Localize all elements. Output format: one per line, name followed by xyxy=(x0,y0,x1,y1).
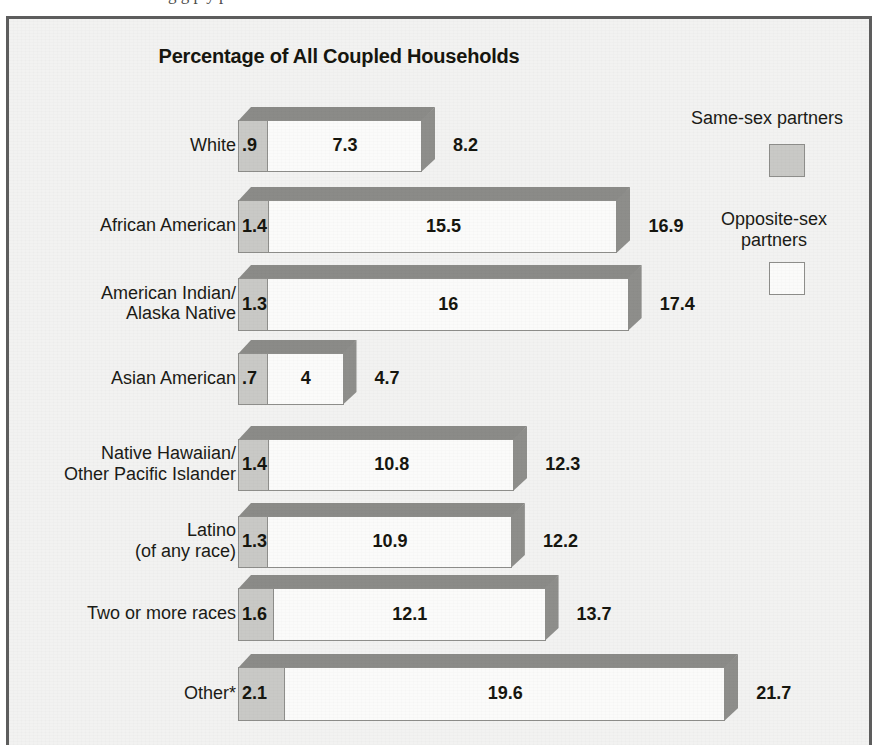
chart-frame: Percentage of All Coupled Households Whi… xyxy=(6,16,872,745)
value-label-opposite-sex: 16 xyxy=(268,294,629,315)
value-label-same-sex: .9 xyxy=(242,135,268,156)
value-label-total: 4.7 xyxy=(375,368,400,389)
value-label-total: 13.7 xyxy=(577,604,612,625)
value-label-total: 21.7 xyxy=(756,683,791,704)
legend-label: Opposite-sex partners xyxy=(699,209,849,250)
value-label-same-sex: 1.4 xyxy=(242,454,269,475)
value-label-same-sex: .7 xyxy=(242,368,268,389)
value-label-total: 12.2 xyxy=(543,531,578,552)
value-label-opposite-sex: 4 xyxy=(268,368,344,389)
value-label-opposite-sex: 7.3 xyxy=(268,135,422,156)
value-label-total: 16.9 xyxy=(648,216,683,237)
bar-top-face xyxy=(238,265,642,279)
category-label: Native Hawaiian/ Other Pacific Islander xyxy=(64,443,236,484)
value-label-same-sex: 1.6 xyxy=(242,604,274,625)
value-label-same-sex: 2.1 xyxy=(242,683,285,704)
bar-top-face xyxy=(238,575,559,589)
value-label-total: 17.4 xyxy=(660,294,695,315)
bar-top-face xyxy=(238,340,357,354)
value-label-same-sex: 1.4 xyxy=(242,216,269,237)
value-label-total: 12.3 xyxy=(545,454,580,475)
category-label: Latino (of any race) xyxy=(135,520,236,561)
value-label-same-sex: 1.3 xyxy=(242,531,268,552)
category-label: White xyxy=(190,135,236,156)
category-label: Other* xyxy=(184,683,236,704)
category-label: Asian American xyxy=(111,368,236,389)
cut-off-top-text: g g p y p xyxy=(0,0,878,14)
category-label: African American xyxy=(100,215,236,236)
value-label-opposite-sex: 15.5 xyxy=(269,216,617,237)
value-label-same-sex: 1.3 xyxy=(242,294,268,315)
bar-top-face xyxy=(238,107,435,121)
value-label-opposite-sex: 10.8 xyxy=(269,454,514,475)
bar-top-face xyxy=(238,426,527,440)
bar-top-face xyxy=(238,654,738,668)
gray-swatch xyxy=(769,144,805,177)
cut-off-top-text-ghost: g g p y p xyxy=(168,0,228,5)
white-swatch xyxy=(769,262,805,295)
bar-top-face xyxy=(238,503,525,517)
value-label-opposite-sex: 19.6 xyxy=(285,683,725,704)
category-label: Two or more races xyxy=(87,603,236,624)
bar-top-face xyxy=(238,187,630,201)
value-label-opposite-sex: 12.1 xyxy=(274,604,546,625)
value-label-opposite-sex: 10.9 xyxy=(268,531,512,552)
legend-label: Same-sex partners xyxy=(667,108,867,129)
category-label: American Indian/ Alaska Native xyxy=(101,283,236,324)
value-label-total: 8.2 xyxy=(453,135,478,156)
